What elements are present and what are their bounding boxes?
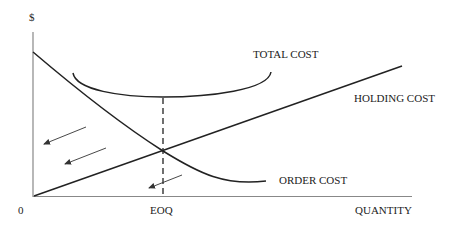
order-cost-label: ORDER COST: [279, 174, 347, 186]
origin-label: 0: [18, 204, 24, 216]
arrow-icon: [149, 175, 182, 188]
y-axis-label: $: [29, 11, 35, 23]
arrow-icon: [44, 127, 86, 144]
eoq-diagram: $ 0 EOQ QUANTITY TOTAL COST HOLDING COST…: [0, 0, 461, 225]
arrow-icon: [65, 148, 106, 164]
eoq-label: EOQ: [150, 204, 173, 216]
x-axis-label: QUANTITY: [355, 204, 412, 216]
total-cost-label: TOTAL COST: [253, 48, 319, 60]
eoq-chart-svg: $ 0 EOQ QUANTITY TOTAL COST HOLDING COST…: [0, 0, 461, 225]
total-cost-curve: [73, 72, 271, 97]
holding-cost-label: HOLDING COST: [354, 92, 435, 104]
